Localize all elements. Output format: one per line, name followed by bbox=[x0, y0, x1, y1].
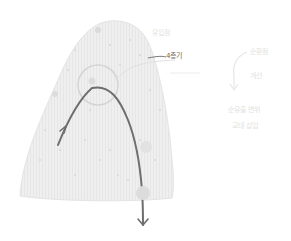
faint-arrow bbox=[234, 52, 247, 88]
mound-shape bbox=[20, 21, 174, 201]
label-right-mid: 개선 bbox=[250, 72, 262, 80]
label-right-top: 순환점 bbox=[250, 48, 268, 56]
side-dot bbox=[140, 141, 152, 153]
focus-dot bbox=[89, 78, 96, 85]
label-right-bottom-2: 교대 삽입 bbox=[232, 122, 258, 130]
label-top: 유입점 bbox=[152, 29, 170, 37]
label-right-bottom-1: 순유출 변위 bbox=[228, 106, 260, 114]
diagram-canvas bbox=[0, 0, 291, 241]
bottom-dot bbox=[136, 186, 150, 200]
label-pointer: 4층기 bbox=[166, 52, 182, 60]
